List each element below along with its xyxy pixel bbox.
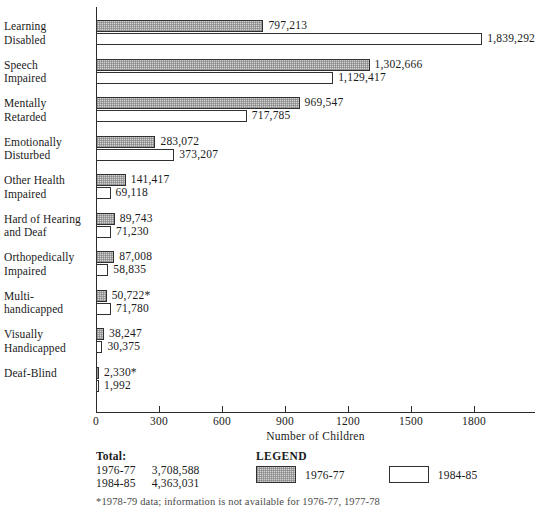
category-label: SpeechImpaired xyxy=(4,59,92,86)
legend-item-label: 1976-77 xyxy=(305,469,345,481)
bar-1976-77: 87,008 xyxy=(96,251,114,263)
bar-1984-85: 1,129,417 xyxy=(96,72,333,84)
category-label-line: Deaf-Blind xyxy=(4,367,57,379)
bar-rect xyxy=(96,20,263,32)
bar-rect xyxy=(96,303,111,315)
category-label-line: Other Health xyxy=(4,174,65,186)
bar-rect xyxy=(96,110,247,122)
legend-items: 1976-77 1984-85 xyxy=(256,466,477,483)
totals-block: Total: 1976-77 3,708,588 1984-85 4,363,0… xyxy=(96,450,200,491)
legend-item-1984-85: 1984-85 xyxy=(389,466,478,483)
bar-value-label: 373,207 xyxy=(179,148,218,161)
category-label-line: Impaired xyxy=(4,72,46,84)
x-axis-line xyxy=(96,412,535,413)
category-label-line: Speech xyxy=(4,59,38,71)
bar-1984-85: 71,780 xyxy=(96,303,111,315)
x-axis-tick-label: 900 xyxy=(276,415,294,427)
category-label-line: Disabled xyxy=(4,34,46,46)
bar-rect xyxy=(96,187,111,199)
x-axis-tick-label: 300 xyxy=(150,415,168,427)
bar-1976-77: 2,330* xyxy=(96,367,99,379)
legend-item-1976-77: 1976-77 xyxy=(256,466,345,483)
category-label-line: Impaired xyxy=(4,188,46,200)
category-label: Hard of Hearingand Deaf xyxy=(4,213,92,240)
category-label-line: Mentally xyxy=(4,97,46,109)
category-label-line: Emotionally xyxy=(4,136,62,148)
category-label-line: Multi- xyxy=(4,290,34,302)
bar-value-label: 717,785 xyxy=(252,109,291,122)
x-axis-tick-label: 1800 xyxy=(462,415,486,427)
category-label: Other HealthImpaired xyxy=(4,174,92,201)
category-label: VisuallyHandicapped xyxy=(4,328,92,355)
plot-area: LearningDisabled797,2131,839,292SpeechIm… xyxy=(0,0,545,420)
totals-table: 1976-77 3,708,588 1984-85 4,363,031 xyxy=(96,464,200,491)
x-axis-title: Number of Children xyxy=(96,430,535,442)
bar-1984-85: 717,785 xyxy=(96,110,247,122)
legend-item-label: 1984-85 xyxy=(438,469,478,481)
x-axis-tick xyxy=(222,406,223,412)
bar-1976-77: 969,547 xyxy=(96,97,300,109)
bar-chart: LearningDisabled797,2131,839,292SpeechIm… xyxy=(0,0,545,508)
x-axis-tick-label: 1500 xyxy=(399,415,423,427)
bar-1976-77: 1,302,666 xyxy=(96,59,370,71)
category-label: OrthopedicallyImpaired xyxy=(4,251,92,278)
category-label: Multi-handicapped xyxy=(4,290,92,317)
bar-rect xyxy=(96,290,107,302)
bar-value-label: 38,247 xyxy=(109,327,142,340)
bar-rect xyxy=(96,380,99,392)
x-axis-tick xyxy=(285,406,286,412)
bar-1976-77: 38,247 xyxy=(96,328,104,340)
bar-rect xyxy=(96,367,99,379)
x-axis-tick xyxy=(474,406,475,412)
bar-rect xyxy=(96,264,108,276)
bar-rect xyxy=(96,136,155,148)
bar-1976-77: 89,743 xyxy=(96,213,115,225)
bar-value-label: 69,118 xyxy=(116,186,148,199)
x-axis-tick xyxy=(159,406,160,412)
bar-1976-77: 50,722* xyxy=(96,290,107,302)
bar-rect xyxy=(96,174,126,186)
table-row: 1976-77 3,708,588 xyxy=(96,464,200,478)
bar-1984-85: 1,992 xyxy=(96,380,99,392)
bar-value-label: 71,230 xyxy=(116,225,149,238)
category-label-line: Disturbed xyxy=(4,149,50,161)
bar-rect xyxy=(96,59,370,71)
totals-year: 1984-85 xyxy=(96,477,152,491)
category-label: LearningDisabled xyxy=(4,20,92,47)
legend-title: LEGEND xyxy=(256,450,477,462)
bar-1984-85: 30,375 xyxy=(96,341,102,353)
bar-1984-85: 69,118 xyxy=(96,187,111,199)
bar-rect xyxy=(96,341,102,353)
bar-rect xyxy=(96,328,104,340)
category-label-line: Orthopedically xyxy=(4,251,74,263)
bar-value-label: 71,780 xyxy=(116,302,149,315)
x-axis-tick xyxy=(348,406,349,412)
bar-rect xyxy=(96,33,482,45)
bar-1976-77: 797,213 xyxy=(96,20,263,32)
bar-value-label: 797,213 xyxy=(268,19,307,32)
bar-value-label: 283,072 xyxy=(160,135,199,148)
category-label: EmotionallyDisturbed xyxy=(4,136,92,163)
x-axis-tick-label: 0 xyxy=(93,415,99,427)
category-label-line: Visually xyxy=(4,328,43,340)
bar-1984-85: 373,207 xyxy=(96,149,174,161)
footnote: *1978-79 data; information is not availa… xyxy=(96,496,380,507)
category-label-line: Hard of Hearing xyxy=(4,213,81,225)
bar-1976-77: 283,072 xyxy=(96,136,155,148)
legend: LEGEND 1976-77 1984-85 xyxy=(256,450,477,483)
x-axis-tick xyxy=(411,406,412,412)
bar-1984-85: 71,230 xyxy=(96,226,111,238)
table-row: 1984-85 4,363,031 xyxy=(96,477,200,491)
x-axis-tick-label: 1200 xyxy=(336,415,360,427)
bar-rect xyxy=(96,72,333,84)
x-axis-tick-label: 600 xyxy=(213,415,231,427)
category-label-line: Retarded xyxy=(4,111,46,123)
bar-value-label: 50,722* xyxy=(112,289,151,302)
totals-value: 3,708,588 xyxy=(152,464,200,478)
bar-rect xyxy=(96,97,300,109)
totals-value: 4,363,031 xyxy=(152,477,200,491)
bar-rect xyxy=(96,213,115,225)
bar-rect xyxy=(96,149,174,161)
bar-value-label: 58,835 xyxy=(113,263,146,276)
x-axis-tick xyxy=(96,406,97,412)
